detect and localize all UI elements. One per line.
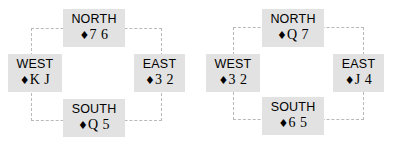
hand-label-south: SOUTH: [268, 100, 318, 114]
card-ranks-west: K J: [30, 72, 51, 87]
card-ranks-east: 3 2: [155, 72, 174, 87]
hand-box-east: EAST ♦3 2: [134, 54, 185, 92]
diamond-suit-icon: ♦: [277, 29, 287, 42]
card-ranks-north: Q 7: [287, 27, 309, 42]
diamond-suit-icon: ♦: [20, 74, 30, 87]
hand-cards-north: ♦Q 7: [268, 27, 318, 43]
hand-box-south: SOUTH ♦6 5: [262, 97, 324, 135]
hand-label-south: SOUTH: [69, 102, 119, 116]
hand-label-north: NORTH: [69, 12, 119, 26]
bridge-diagram-right: NORTH ♦Q 7 WEST ♦3 2 EAST ♦J 4 SOUTH ♦6 …: [200, 0, 401, 153]
bridge-diagram-pair: NORTH ♦7 6 WEST ♦K J EAST ♦3 2 SOUTH ♦Q …: [0, 0, 401, 153]
hand-label-east: EAST: [339, 57, 378, 71]
diamond-suit-icon: ♦: [219, 74, 229, 87]
diamond-suit-icon: ♦: [78, 119, 88, 132]
hand-cards-west: ♦K J: [14, 72, 56, 88]
diamond-suit-icon: ♦: [279, 117, 289, 130]
card-ranks-north: 7 6: [89, 27, 108, 42]
hand-cards-east: ♦J 4: [339, 72, 378, 88]
hand-box-north: NORTH ♦Q 7: [262, 9, 324, 47]
hand-label-west: WEST: [14, 57, 56, 71]
card-ranks-west: 3 2: [228, 72, 247, 87]
hand-label-east: EAST: [140, 57, 179, 71]
hand-cards-west: ♦3 2: [212, 72, 254, 88]
card-ranks-east: J 4: [355, 72, 372, 87]
hand-label-north: NORTH: [268, 12, 318, 26]
card-ranks-south: Q 5: [88, 117, 110, 132]
hand-box-west: WEST ♦3 2: [206, 54, 260, 92]
hand-cards-east: ♦3 2: [140, 72, 179, 88]
diamond-suit-icon: ♦: [345, 74, 355, 87]
card-ranks-south: 6 5: [288, 115, 307, 130]
hand-cards-north: ♦7 6: [69, 27, 119, 43]
hand-cards-south: ♦Q 5: [69, 117, 119, 133]
hand-box-east: EAST ♦J 4: [333, 54, 384, 92]
hand-box-north: NORTH ♦7 6: [63, 9, 125, 47]
hand-cards-south: ♦6 5: [268, 115, 318, 131]
hand-box-west: WEST ♦K J: [8, 54, 62, 92]
diamond-suit-icon: ♦: [80, 29, 90, 42]
diamond-suit-icon: ♦: [145, 74, 155, 87]
hand-label-west: WEST: [212, 57, 254, 71]
hand-box-south: SOUTH ♦Q 5: [63, 99, 125, 137]
bridge-diagram-left: NORTH ♦7 6 WEST ♦K J EAST ♦3 2 SOUTH ♦Q …: [0, 0, 200, 153]
